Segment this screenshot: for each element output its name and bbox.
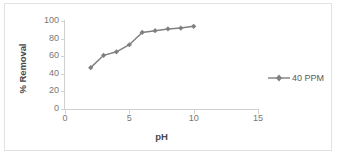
- x-axis-line: [64, 109, 259, 110]
- data-point-marker: [165, 26, 170, 31]
- legend: 40 PPM: [267, 72, 324, 84]
- x-axis-tick-label: 15: [246, 114, 270, 123]
- data-point-marker: [152, 28, 157, 33]
- x-axis-tick-label: 10: [182, 114, 206, 123]
- y-axis-title-text: % Removal: [18, 43, 29, 93]
- x-axis-tick-labels: 051015: [5, 114, 340, 128]
- x-axis-tick-mark: [65, 110, 66, 114]
- line-diamond-marker-icon: [267, 72, 291, 84]
- x-axis-tick-label: 0: [53, 114, 77, 123]
- y-axis-tick-label: 40: [37, 69, 59, 78]
- y-axis-title: % Removal: [15, 32, 31, 104]
- data-point-marker: [178, 25, 183, 30]
- y-axis-tick-label: 80: [37, 34, 59, 43]
- data-series-40-ppm: [65, 21, 258, 109]
- y-axis-tick-label: 100: [37, 16, 59, 25]
- legend-label-40-ppm: 40 PPM: [292, 73, 324, 83]
- chart-container: % Removal pH 020406080100 051015 40 PPM: [4, 3, 332, 151]
- y-axis-tick-label: 20: [37, 86, 59, 95]
- data-point-marker: [191, 24, 196, 29]
- x-axis-tick-label: 5: [117, 114, 141, 123]
- x-axis-tick-mark: [129, 110, 130, 114]
- x-axis-tick-mark: [194, 110, 195, 114]
- x-axis-title: pH: [65, 131, 258, 142]
- y-axis-tick-labels: 020406080100: [33, 4, 59, 159]
- y-axis-tick-label: 0: [37, 104, 59, 113]
- y-axis-tick-label: 60: [37, 51, 59, 60]
- plot-area: [65, 21, 258, 109]
- x-axis-tick-mark: [258, 110, 259, 114]
